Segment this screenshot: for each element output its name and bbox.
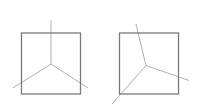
ray-line-2: [13, 64, 51, 88]
diagram-canvas: [0, 0, 208, 109]
left-square-diagram: [13, 20, 88, 94]
ray-line-2: [146, 66, 189, 81]
ray-line-1: [136, 24, 146, 66]
ray-line-3: [51, 64, 88, 88]
right-square-diagram: [112, 24, 189, 104]
ray-line-3: [112, 66, 146, 105]
